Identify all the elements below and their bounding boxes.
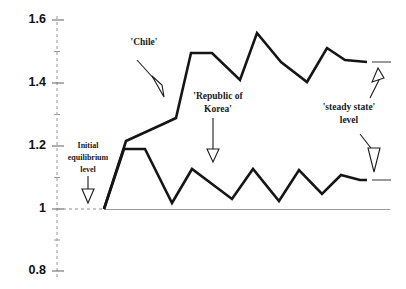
chart-figure: 1.6 1.4 1.2 1 0.8 Initial equilibrium le… bbox=[0, 0, 406, 289]
annotation-republic-of-korea: 'Republic of Korea' bbox=[193, 91, 243, 162]
korea-label-line1: 'Republic of bbox=[193, 91, 243, 101]
steady-state-label-line1: 'steady state' bbox=[323, 102, 376, 112]
reference-lines bbox=[57, 209, 390, 210]
initial-equilibrium-line3: level bbox=[80, 165, 96, 174]
chile-arrow-head-icon bbox=[152, 76, 164, 97]
annotation-steady-state-level: 'steady state' level bbox=[323, 68, 384, 172]
y-axis-label-1.6: 1.6 bbox=[29, 12, 46, 26]
y-axis-label-1.0: 1 bbox=[39, 201, 46, 215]
series-line-republic-of-korea bbox=[104, 149, 367, 209]
y-axis-label-1.2: 1.2 bbox=[29, 138, 46, 152]
chile-label: 'Chile' bbox=[131, 37, 158, 47]
initial-equilibrium-line2: equilibrium bbox=[68, 153, 109, 162]
annotation-initial-equilibrium-level: Initial equilibrium level bbox=[68, 141, 109, 203]
annotation-chile: 'Chile' bbox=[131, 37, 164, 97]
steady-state-arrow-head-up-icon bbox=[372, 68, 384, 82]
korea-arrow-head-icon bbox=[207, 149, 219, 162]
initial-equilibrium-line1: Initial bbox=[78, 141, 100, 150]
steady-state-label-line2: level bbox=[340, 115, 359, 125]
series-line-chile bbox=[104, 33, 367, 209]
chart-svg: 1.6 1.4 1.2 1 0.8 Initial equilibrium le… bbox=[0, 0, 406, 289]
initial-equilibrium-arrow-head-icon bbox=[82, 189, 94, 203]
y-axis: 1.6 1.4 1.2 1 0.8 bbox=[29, 12, 64, 277]
steady-state-arrow-head-down-icon bbox=[368, 148, 380, 172]
korea-label-line2: Korea' bbox=[204, 104, 232, 114]
y-axis-label-1.4: 1.4 bbox=[29, 75, 46, 89]
y-axis-label-0.8: 0.8 bbox=[29, 263, 46, 277]
